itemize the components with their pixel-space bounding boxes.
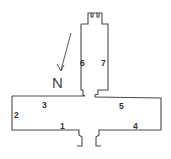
floor-plan-diagram: N 1 2 3 4 5 6 7 bbox=[0, 0, 171, 159]
upper-wing-left-wall bbox=[12, 24, 85, 96]
main-wing-outline bbox=[12, 96, 82, 146]
area-label-2: 2 bbox=[14, 110, 19, 120]
area-label-1: 1 bbox=[60, 121, 65, 131]
compass: N bbox=[52, 33, 71, 91]
top-entrance-detail bbox=[91, 13, 99, 17]
area-label-6: 6 bbox=[80, 58, 85, 68]
north-label: N bbox=[52, 74, 63, 91]
area-label-3: 3 bbox=[42, 100, 47, 110]
area-label-5: 5 bbox=[119, 101, 124, 111]
arrow-head-icon bbox=[57, 64, 64, 71]
area-label-4: 4 bbox=[133, 121, 138, 131]
upper-wing-outline bbox=[81, 13, 108, 97]
area-label-7: 7 bbox=[101, 58, 106, 68]
north-arrow-icon bbox=[61, 33, 71, 70]
main-wing-right-outline bbox=[95, 97, 161, 146]
